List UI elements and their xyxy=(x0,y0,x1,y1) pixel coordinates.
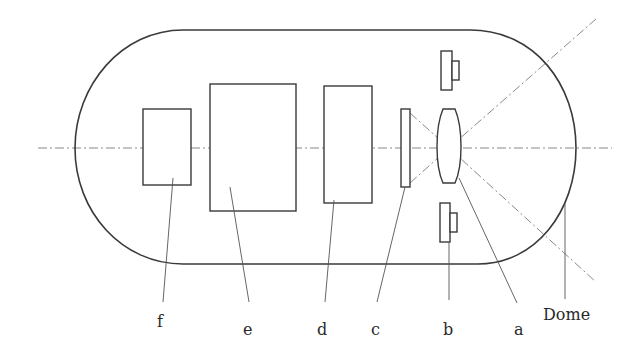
leader-d xyxy=(325,200,334,302)
label-a: a xyxy=(514,320,524,339)
optical-diagram: f e d c b a Dome xyxy=(0,0,629,352)
component-c-plate xyxy=(401,109,410,187)
leader-a xyxy=(459,178,517,303)
label-b: b xyxy=(443,320,453,339)
label-f: f xyxy=(157,312,164,331)
label-dome: Dome xyxy=(543,305,590,324)
component-a-lens xyxy=(437,109,461,183)
component-f-box xyxy=(143,109,191,185)
component-b-lower-bracket xyxy=(440,203,457,242)
leader-f xyxy=(163,178,173,302)
component-b-upper-bracket xyxy=(441,51,459,90)
label-c: c xyxy=(371,320,380,339)
label-e: e xyxy=(243,320,252,339)
leader-c xyxy=(377,187,405,302)
label-d: d xyxy=(317,320,327,339)
component-e-box xyxy=(210,84,296,211)
component-d-box xyxy=(324,86,372,203)
